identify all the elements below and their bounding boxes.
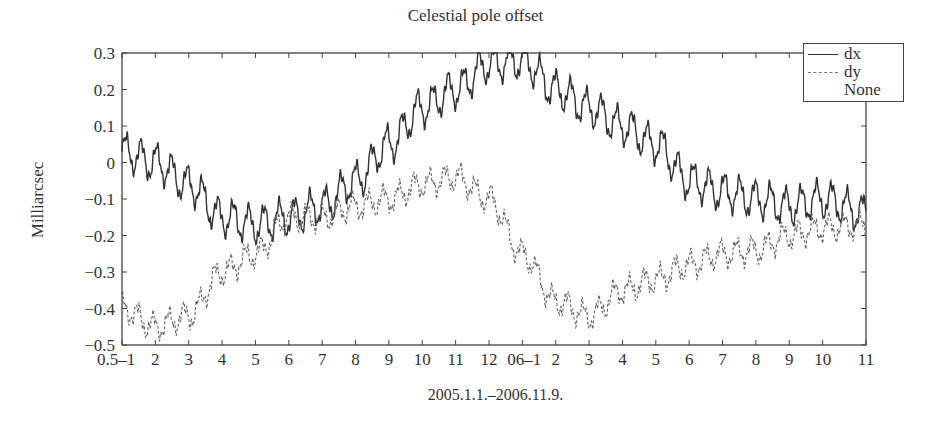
legend: dx dy None [803, 43, 904, 102]
x-tick-label: 8 [351, 350, 360, 369]
x-tick-label: 3 [585, 350, 594, 369]
x-tick-label: 0.5–1 [97, 350, 135, 369]
y-tick-label: −0.1 [84, 190, 115, 209]
x-tick-label: 06–1 [507, 350, 541, 369]
x-tick-label: 5 [251, 350, 260, 369]
legend-item-dx: dx [808, 45, 861, 63]
x-tick-label: 4 [618, 350, 627, 369]
x-tick-label: 12 [480, 350, 497, 369]
x-tick-label: 6 [285, 350, 294, 369]
y-tick-label: 0.2 [94, 81, 115, 100]
x-tick-label: 2 [151, 350, 160, 369]
y-tick-label: −0.2 [84, 227, 115, 246]
y-tick-label: −0.4 [84, 300, 115, 319]
x-tick-label: 10 [814, 350, 831, 369]
legend-item-none: None [844, 81, 881, 99]
x-tick-label: 7 [318, 350, 327, 369]
x-tick-label: 2 [551, 350, 560, 369]
y-tick-label: 0.1 [94, 117, 115, 136]
dashed-line-icon [808, 72, 838, 73]
x-tick-label: 7 [718, 350, 727, 369]
y-tick-label: 0.3 [94, 44, 115, 63]
x-tick-label: 3 [184, 350, 193, 369]
x-tick-label: 11 [858, 350, 874, 369]
y-tick-label: 0 [107, 154, 116, 173]
series-dx-line [122, 53, 866, 245]
x-tick-label: 9 [785, 350, 794, 369]
x-tick-label: 6 [685, 350, 694, 369]
y-tick-label: −0.3 [84, 263, 115, 282]
x-tick-label: 8 [752, 350, 761, 369]
x-tick-label: 11 [447, 350, 463, 369]
legend-item-dy: dy [808, 63, 861, 81]
x-tick-label: 9 [385, 350, 394, 369]
solid-line-icon [808, 54, 838, 55]
x-tick-label: 5 [652, 350, 661, 369]
x-tick-label: 4 [218, 350, 227, 369]
x-tick-label: 10 [414, 350, 431, 369]
